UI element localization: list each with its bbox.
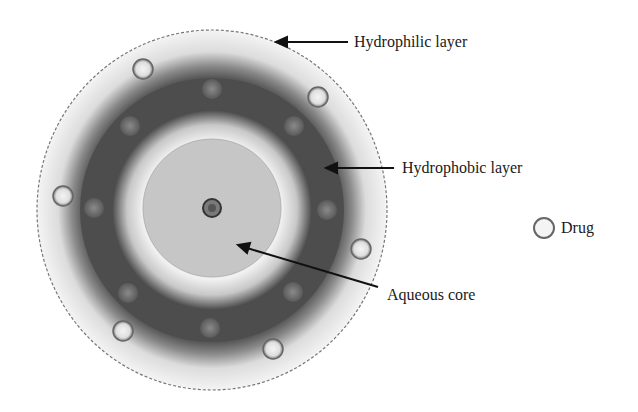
drug-label: Drug [561,220,594,236]
drug-legend-icon [534,218,554,238]
aqueous-core-label: Aqueous core [387,287,475,303]
hydrophobic-label: Hydrophobic layer [402,160,522,176]
hydrophilic-label: Hydrophilic layer [354,34,467,50]
nanoparticle-diagram [0,0,638,412]
